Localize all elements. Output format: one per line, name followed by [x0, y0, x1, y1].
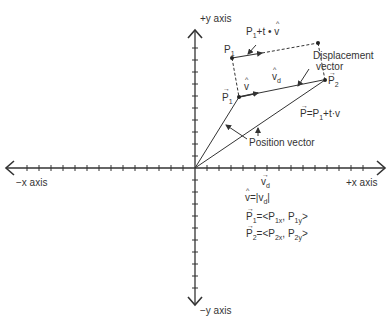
point-p1: [237, 95, 241, 99]
label-p1-components: P1=<P1x, P1y>: [246, 211, 308, 225]
pos-y-axis-label: +y axis: [200, 13, 231, 24]
neg-x-axis-label: −x axis: [16, 177, 47, 188]
vector-arrow-vd: →: [262, 171, 269, 178]
dashed-extension: [262, 43, 318, 53]
p1-plus-tv-vector: [232, 53, 262, 58]
label-p1-plus-tv: P1+t • v: [246, 26, 279, 39]
label-p1-vector: P1: [222, 92, 233, 105]
vector-arrow-p1: →: [223, 85, 230, 92]
vector-diagram: +y axis −y axis +x axis −x axis P1 P1+t …: [0, 0, 392, 332]
vector-arrow-p2: →: [329, 69, 336, 76]
vector-arrow-p2-comp: →: [247, 222, 254, 229]
neg-y-axis-label: −y axis: [200, 305, 231, 316]
point-top-right: [316, 41, 320, 45]
dashed-link-p1: [232, 58, 239, 97]
hat-mark: ^: [276, 20, 280, 27]
unit-vector-v-hat: [239, 93, 258, 97]
label-position-vector: Position vector: [249, 137, 315, 148]
label-p1-top: P1: [224, 44, 235, 57]
label-displacement-1: Displacement: [313, 50, 374, 61]
point-p2: [323, 78, 327, 82]
label-p2-components: P2=<P2x, P2y>: [246, 228, 308, 242]
pointer-p1-plus-tv: [248, 45, 256, 54]
vector-arrow-p: →: [301, 102, 308, 109]
label-p2-vector: P2: [328, 75, 339, 88]
position-vector-p1: [195, 97, 239, 168]
vector-arrow-p1-comp: →: [247, 205, 254, 212]
pos-x-axis-label: +x axis: [346, 177, 377, 188]
pointer-position-p1: [226, 125, 247, 139]
label-p-equation: P=P1+t·v: [300, 108, 340, 121]
